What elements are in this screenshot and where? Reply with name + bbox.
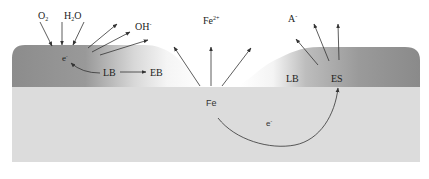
label-lb-left: LB: [103, 67, 116, 78]
label-lb-right: LB: [286, 73, 299, 84]
label-h2o: H2O: [64, 10, 81, 22]
label-anion: A-: [288, 13, 297, 24]
label-fe-metal: Fe: [206, 98, 217, 108]
arrow-fe-out-3: [222, 48, 251, 86]
corrosion-diagram: O2 H2O OH- Fe2+ A- e- LB EB LB ES Fe e-: [0, 0, 429, 179]
label-eb: EB: [150, 67, 163, 78]
label-oh: OH-: [135, 21, 151, 32]
arrow-oh-out-1: [88, 24, 117, 48]
label-es: ES: [331, 73, 343, 84]
coating-layer: [12, 45, 420, 87]
arrow-o2-in: [40, 22, 52, 46]
label-fe-ion: Fe2+: [203, 15, 220, 26]
label-o2: O2: [38, 10, 48, 22]
arrow-in-3: [73, 22, 84, 45]
